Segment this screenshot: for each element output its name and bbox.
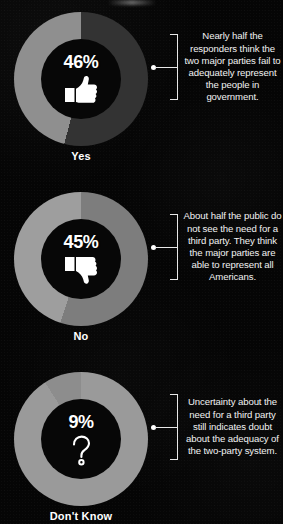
percent-value: 9% — [68, 413, 93, 431]
leader-connector — [155, 247, 177, 248]
leader-bracket — [177, 214, 178, 280]
percent-value: 45% — [64, 233, 99, 251]
leader-bracket — [177, 34, 178, 100]
leader-line-group — [151, 210, 182, 284]
leader-serif-top — [170, 214, 178, 215]
leader-serif-bottom — [170, 279, 178, 280]
callout-dont-know: Uncertainty about the need for a third p… — [151, 390, 283, 464]
donut-center: 9% — [41, 399, 121, 479]
donut-chart-yes: 46% — [14, 12, 148, 146]
leader-serif-top — [170, 34, 178, 35]
leader-serif-bottom — [170, 459, 178, 460]
category-label-yes: Yes — [14, 150, 148, 162]
donut-chart-no: 45% — [14, 192, 148, 326]
donut-center: 45% — [41, 219, 121, 299]
donut-chart-dont-know: 9% — [14, 372, 148, 506]
leader-line-group — [151, 30, 182, 104]
leader-serif-bottom — [170, 99, 178, 100]
callout-text: Nearly half the responders think the two… — [182, 30, 283, 103]
category-label-no: No — [14, 330, 148, 342]
leader-line-group — [151, 390, 182, 464]
percent-value: 46% — [64, 53, 99, 71]
donut-center: 46% — [41, 39, 121, 119]
thumbs-up-icon — [64, 74, 98, 106]
leader-serif-top — [170, 394, 178, 395]
callout-text: About half the public do not see the nee… — [182, 210, 283, 283]
callout-no: About half the public do not see the nee… — [151, 210, 283, 284]
leader-bracket — [177, 394, 178, 460]
thumbs-down-icon — [64, 254, 98, 286]
leader-connector — [155, 67, 177, 68]
question-mark-icon — [64, 434, 98, 466]
category-label-dont-know: Don't Know — [14, 510, 148, 522]
leader-connector — [155, 427, 177, 428]
callout-yes: Nearly half the responders think the two… — [151, 30, 283, 104]
top-edge-artifact — [108, 0, 156, 5]
callout-text: Uncertainty about the need for a third p… — [182, 396, 283, 457]
